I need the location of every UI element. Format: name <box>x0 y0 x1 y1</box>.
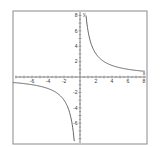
x-tick-label: -4 <box>46 78 51 84</box>
y-tick-label: 6 <box>75 28 78 34</box>
y-tick-label: 4 <box>75 43 78 49</box>
y-tick-label: -2 <box>73 89 78 95</box>
y-tick-label: 8 <box>75 12 78 18</box>
x-tick-label: 4 <box>111 78 114 84</box>
x-tick-label: 2 <box>95 78 98 84</box>
y-tick-label: -4 <box>73 105 78 111</box>
x-tick-label: 6 <box>127 78 130 84</box>
x-tick-label: -2 <box>62 78 67 84</box>
x-tick-label: 8 <box>143 78 146 84</box>
y-tick-label: -6 <box>73 120 78 126</box>
x-tick-label: -6 <box>30 78 35 84</box>
hyperbola-chart: -6-4-224688642-2-4-6xy <box>0 0 164 147</box>
y-tick-label: 2 <box>75 58 78 64</box>
